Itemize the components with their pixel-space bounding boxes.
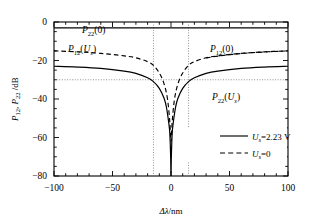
ytick-label: −40 [32, 94, 47, 104]
ytick-label: −20 [32, 56, 47, 66]
figure-container: −100−500501000−20−40−60−80 Δλ/nm P12, P2… [0, 0, 310, 224]
legend-label-solid: Us=2.23 V [252, 132, 291, 144]
ytick-label: −60 [32, 133, 47, 143]
xtick-label: 0 [169, 183, 174, 193]
xtick-label: −50 [105, 183, 120, 193]
ytick-label: −80 [32, 171, 47, 181]
xtick-label: 100 [281, 183, 296, 193]
xtick-label: −100 [44, 183, 64, 193]
x-axis-title: Δλ/nm [158, 206, 182, 216]
xtick-label: 50 [225, 183, 235, 193]
legend: Us=2.23 V Us=0 [186, 127, 291, 162]
ytick-label: 0 [42, 17, 47, 27]
chart-svg: −100−500501000−20−40−60−80 Δλ/nm P12, P2… [0, 0, 310, 224]
legend-label-dashed: Us=0 [252, 149, 271, 161]
